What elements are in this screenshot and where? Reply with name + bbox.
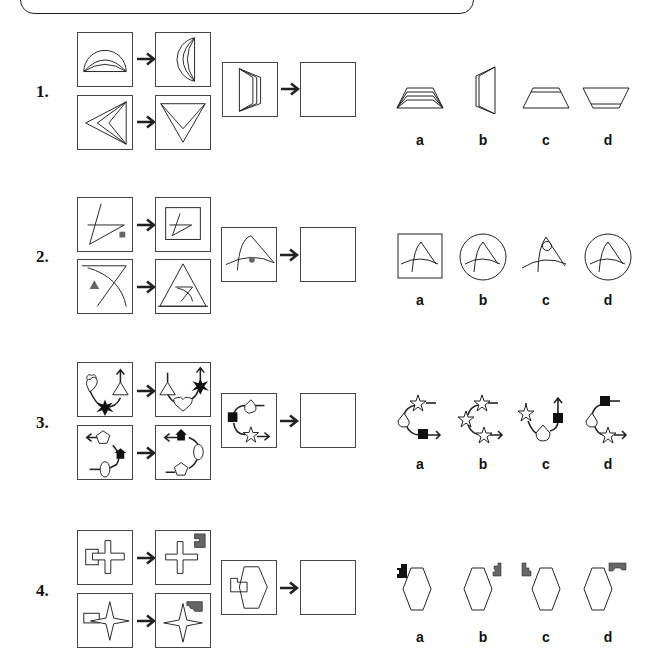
arrow-icon — [279, 414, 299, 428]
q1-option-d-label[interactable]: d — [598, 132, 618, 148]
q3-example-2-result — [155, 425, 211, 480]
q4-option-a-figure[interactable] — [395, 562, 445, 612]
q2-example-1-source — [77, 197, 133, 252]
q2-option-b-figure[interactable] — [458, 232, 508, 282]
q4-option-c-figure[interactable] — [520, 562, 570, 612]
q3-test-figure — [221, 393, 277, 448]
q2-example-1-result — [155, 197, 211, 252]
q4-test-figure — [221, 560, 277, 615]
arrow-icon — [279, 581, 299, 595]
arrow-icon — [136, 614, 156, 628]
q1-answer-box[interactable] — [300, 62, 356, 117]
q1-test-figure — [222, 62, 278, 117]
q4-example-1-result — [155, 530, 211, 585]
q2-answer-box[interactable] — [300, 227, 356, 282]
q3-example-1-source — [77, 362, 133, 417]
q3-option-a-figure[interactable] — [394, 395, 444, 445]
arrow-icon — [136, 384, 156, 398]
q2-test-figure — [221, 227, 277, 282]
q4-answer-box[interactable] — [300, 560, 356, 615]
q1-option-d-figure[interactable] — [581, 68, 631, 118]
q3-option-c-figure[interactable] — [518, 395, 568, 445]
q1-example-2-result — [155, 95, 211, 150]
q3-example-1-result — [155, 362, 211, 417]
arrow-icon — [136, 280, 156, 294]
q2-option-a-figure[interactable] — [396, 232, 446, 282]
arrow-icon — [136, 52, 156, 66]
arrow-icon — [136, 446, 156, 460]
question-number: 1. — [36, 82, 49, 102]
q3-option-d-label[interactable]: d — [598, 456, 618, 472]
q1-example-1-result — [155, 32, 211, 87]
instruction-banner — [20, 0, 474, 14]
q3-option-d-figure[interactable] — [582, 395, 632, 445]
q1-example-2-source — [77, 95, 133, 150]
q3-option-c-label[interactable]: c — [536, 456, 556, 472]
q4-option-a-label[interactable]: a — [410, 629, 430, 645]
q3-option-b-label[interactable]: b — [473, 456, 493, 472]
q3-option-a-label[interactable]: a — [410, 456, 430, 472]
q1-option-a-figure[interactable] — [395, 68, 445, 118]
q2-option-c-label[interactable]: c — [536, 292, 556, 308]
q3-option-b-figure[interactable] — [456, 395, 506, 445]
q3-answer-box[interactable] — [300, 393, 356, 448]
q2-option-c-figure[interactable] — [520, 232, 570, 282]
question-number: 4. — [36, 581, 49, 601]
q4-example-2-result — [155, 593, 211, 648]
q1-option-b-label[interactable]: b — [473, 132, 493, 148]
q4-option-c-label[interactable]: c — [536, 629, 556, 645]
arrow-icon — [136, 551, 156, 565]
q2-option-b-label[interactable]: b — [473, 292, 493, 308]
q4-option-d-figure[interactable] — [582, 562, 632, 612]
q2-option-d-label[interactable]: d — [598, 292, 618, 308]
q3-example-2-source — [77, 425, 133, 480]
q4-option-b-label[interactable]: b — [473, 629, 493, 645]
q4-example-2-source — [77, 593, 133, 648]
q1-example-1-source — [77, 32, 133, 87]
arrow-icon — [136, 115, 156, 129]
q2-example-2-source — [77, 259, 133, 314]
q4-option-b-figure[interactable] — [458, 562, 508, 612]
q4-example-1-source — [77, 530, 133, 585]
question-number: 3. — [36, 413, 49, 433]
q2-option-d-figure[interactable] — [583, 232, 633, 282]
q1-option-c-figure[interactable] — [521, 68, 571, 118]
question-number: 2. — [36, 247, 49, 267]
arrow-icon — [280, 82, 300, 96]
arrow-icon — [279, 248, 299, 262]
q2-example-2-result — [155, 259, 211, 314]
q4-option-d-label[interactable]: d — [598, 629, 618, 645]
q1-option-b-figure[interactable] — [460, 64, 510, 114]
arrow-icon — [136, 218, 156, 232]
q1-option-a-label[interactable]: a — [410, 132, 430, 148]
q1-option-c-label[interactable]: c — [536, 132, 556, 148]
q2-option-a-label[interactable]: a — [410, 292, 430, 308]
